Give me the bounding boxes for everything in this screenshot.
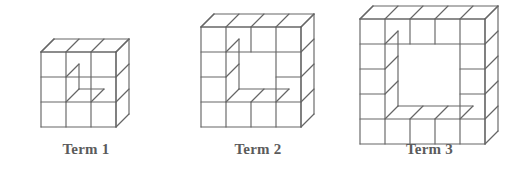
term-label-1: Term 1 [0,141,172,158]
cube-frame-svg [35,33,137,135]
cube-frame-term-2 [195,8,322,135]
term-label-2: Term 2 [172,141,344,158]
cube-frame-term-1 [35,33,137,135]
cube-frame-svg [354,0,506,152]
cube-frame-svg [195,8,322,135]
term-group-3: Term 3 [344,0,515,175]
term-group-2: Term 2 [172,0,344,175]
cube-frame-term-3 [354,0,506,152]
term-group-1: Term 1 [0,0,172,175]
pattern-figure: Term 1 Term 2 Term 3 [0,0,515,175]
term-label-3: Term 3 [344,141,515,158]
